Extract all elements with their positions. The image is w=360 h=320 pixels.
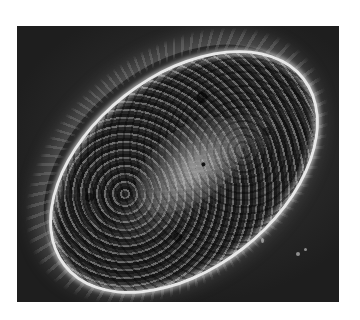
paramecium-cell [17, 26, 339, 302]
micrograph-photo [17, 26, 339, 302]
debris-speck [304, 248, 307, 251]
debris-speck [261, 238, 264, 243]
debris-speck [296, 252, 300, 256]
